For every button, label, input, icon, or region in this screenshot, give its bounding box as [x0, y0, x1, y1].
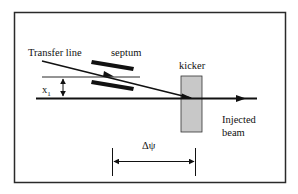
- x1-label: x1: [42, 84, 51, 100]
- septum-upper-plate: [91, 60, 134, 71]
- septum-label: septum: [111, 47, 141, 58]
- beam-direction-arrow-icon: [236, 95, 246, 102]
- x1-label-sub: 1: [47, 90, 51, 98]
- kicker-magnet: [181, 76, 202, 132]
- transfer-line-label: Transfer line: [28, 47, 82, 58]
- injected-beam-label-line1: Injected: [222, 114, 256, 125]
- phase-advance-label: Δψ: [142, 140, 155, 151]
- injection-diagram: Transfer line septum kicker x1 Injected …: [0, 0, 298, 194]
- injected-beam-label-line2: beam: [222, 127, 245, 138]
- kicker-label: kicker: [179, 60, 205, 71]
- transfer-line-arrow-icon: [103, 71, 114, 77]
